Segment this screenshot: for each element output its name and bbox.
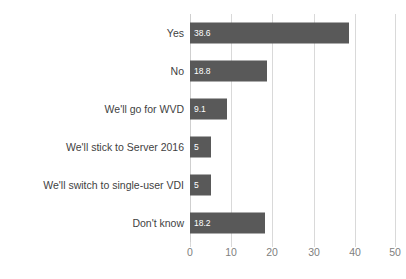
bar-value-single-user-vdi: 5: [194, 181, 199, 190]
bar-dont-know: 18.2: [190, 213, 265, 234]
bar-rows: Yes 38.6 No 18.8 We'll go for WVD 9.1: [0, 14, 406, 242]
bar-row-yes: Yes 38.6: [0, 14, 406, 52]
xtick-label-30: 30: [308, 247, 320, 258]
xtick-label-10: 10: [225, 247, 237, 258]
bar-wvd: 9.1: [190, 99, 227, 120]
bar-wrap-single-user-vdi: 5: [190, 175, 211, 196]
bar-row-wvd: We'll go for WVD 9.1: [0, 90, 406, 128]
xtick-label-40: 40: [349, 247, 361, 258]
category-label-single-user-vdi: We'll switch to single-user VDI: [0, 180, 184, 191]
xtick-label-0: 0: [187, 247, 193, 258]
bar-wrap-no: 18.8: [190, 61, 267, 82]
xtick-label-50: 50: [389, 247, 401, 258]
category-label-wvd: We'll go for WVD: [0, 104, 184, 115]
bar-chart: Yes 38.6 No 18.8 We'll go for WVD 9.1: [0, 0, 406, 279]
x-axis: 0 10 20 30 40 50: [0, 247, 406, 267]
xtick-label-20: 20: [266, 247, 278, 258]
bar-value-dont-know: 18.2: [194, 219, 211, 228]
bar-wrap-server-2016: 5: [190, 137, 211, 158]
bar-row-server-2016: We'll stick to Server 2016 5: [0, 128, 406, 166]
bar-no: 18.8: [190, 61, 267, 82]
category-label-server-2016: We'll stick to Server 2016: [0, 142, 184, 153]
bar-wrap-wvd: 9.1: [190, 99, 227, 120]
bar-row-single-user-vdi: We'll switch to single-user VDI 5: [0, 166, 406, 204]
bar-row-no: No 18.8: [0, 52, 406, 90]
bar-value-no: 18.8: [194, 67, 211, 76]
category-label-yes: Yes: [0, 28, 184, 39]
bar-value-server-2016: 5: [194, 143, 199, 152]
bar-wrap-yes: 38.6: [190, 23, 349, 44]
bar-single-user-vdi: 5: [190, 175, 211, 196]
bar-server-2016: 5: [190, 137, 211, 158]
category-label-dont-know: Don't know: [0, 218, 184, 229]
bar-row-dont-know: Don't know 18.2: [0, 204, 406, 242]
bar-wrap-dont-know: 18.2: [190, 213, 265, 234]
bar-value-wvd: 9.1: [194, 105, 206, 114]
bar-value-yes: 38.6: [194, 29, 211, 38]
category-label-no: No: [0, 66, 184, 77]
bar-yes: 38.6: [190, 23, 349, 44]
